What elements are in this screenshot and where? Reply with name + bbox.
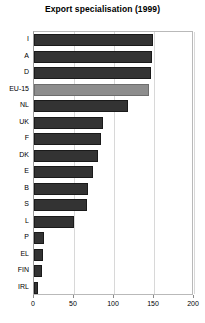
- category-label-nl: NL: [20, 101, 29, 109]
- bar-row: [34, 282, 192, 294]
- category-label-e: E: [24, 167, 29, 175]
- category-label-d: D: [24, 68, 29, 76]
- bar-row: [34, 183, 192, 195]
- bar-row: [34, 199, 192, 211]
- bar-irl: [34, 282, 38, 294]
- bar-dk: [34, 150, 98, 162]
- bar-f: [34, 133, 101, 145]
- bar-d: [34, 67, 151, 79]
- category-label-a: A: [24, 52, 29, 60]
- category-label-el: EL: [20, 250, 29, 258]
- bar-uk: [34, 117, 103, 129]
- category-label-uk: UK: [19, 118, 29, 126]
- xtick-label-50: 50: [69, 299, 77, 308]
- bar-el: [34, 249, 43, 261]
- bar-fin: [34, 265, 42, 277]
- gridline: [194, 32, 195, 294]
- bars-layer: [34, 32, 192, 294]
- category-label-l: L: [25, 217, 29, 225]
- category-label-s: S: [24, 200, 29, 208]
- export-specialisation-chart: Export specialisation (1999) IADEU-15NLU…: [0, 0, 205, 323]
- category-axis-labels: IADEU-15NLUKFDKEBSLPELFINIRL: [0, 31, 31, 295]
- bar-row: [34, 117, 192, 129]
- bar-row: [34, 232, 192, 244]
- bar-b: [34, 183, 88, 195]
- bar-row: [34, 150, 192, 162]
- bar-i: [34, 34, 153, 46]
- xtick-mark: [193, 295, 194, 298]
- category-label-dk: DK: [19, 151, 29, 159]
- xtick-label-100: 100: [107, 299, 119, 308]
- bar-eu-15: [34, 84, 149, 96]
- value-axis-ticks: 050100150200: [0, 295, 205, 311]
- xtick-label-200: 200: [187, 299, 199, 308]
- category-label-f: F: [25, 134, 29, 142]
- category-label-p: P: [24, 233, 29, 241]
- bar-p: [34, 232, 44, 244]
- xtick-mark: [73, 295, 74, 298]
- category-label-irl: IRL: [18, 283, 29, 291]
- category-label-fin: FIN: [18, 266, 29, 274]
- plot-area: [33, 31, 193, 295]
- xtick-label-0: 0: [31, 299, 35, 308]
- xtick-mark: [33, 295, 34, 298]
- bar-a: [34, 51, 152, 63]
- chart-title: Export specialisation (1999): [0, 4, 205, 15]
- bar-row: [34, 265, 192, 277]
- bar-row: [34, 166, 192, 178]
- category-label-b: B: [24, 184, 29, 192]
- bar-row: [34, 133, 192, 145]
- bar-nl: [34, 100, 128, 112]
- xtick-mark: [113, 295, 114, 298]
- bar-row: [34, 67, 192, 79]
- xtick-label-150: 150: [147, 299, 159, 308]
- bar-s: [34, 199, 87, 211]
- bar-row: [34, 84, 192, 96]
- category-label-i: I: [27, 35, 29, 43]
- category-label-eu-15: EU-15: [9, 85, 29, 93]
- xtick-mark: [153, 295, 154, 298]
- bar-l: [34, 216, 74, 228]
- bar-e: [34, 166, 93, 178]
- bar-row: [34, 216, 192, 228]
- bar-row: [34, 51, 192, 63]
- bar-row: [34, 100, 192, 112]
- bar-row: [34, 34, 192, 46]
- bar-row: [34, 249, 192, 261]
